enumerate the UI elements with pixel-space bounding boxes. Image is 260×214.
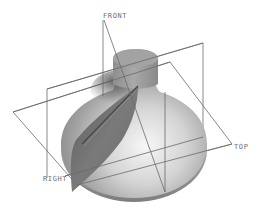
model-canvas[interactable]: FRONT RIGHT TOP (0, 0, 260, 214)
datum-label-front[interactable]: FRONT (103, 12, 127, 20)
datum-label-right[interactable]: RIGHT (43, 175, 67, 183)
model-viewport[interactable]: FRONT RIGHT TOP (0, 0, 260, 214)
datum-label-top[interactable]: TOP (234, 143, 248, 151)
